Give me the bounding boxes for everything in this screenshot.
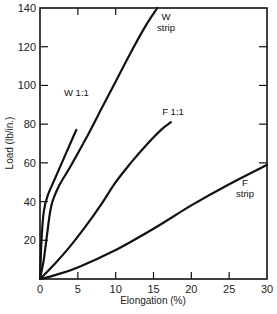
x-tick-label: 15 [147, 283, 159, 295]
series-labels: W 1:1WstripF 1:1Fstrip [64, 11, 254, 199]
y-tick-label: 20 [24, 234, 36, 246]
y-tick-label: 60 [24, 157, 36, 169]
y-tick-label: 140 [18, 2, 36, 14]
series-label-w-1-1: W 1:1 [64, 87, 89, 98]
y-tick-label: 120 [18, 41, 36, 53]
series-label-w-strip: strip [157, 22, 175, 33]
x-tick-label: 10 [110, 283, 122, 295]
x-tick-label: 0 [37, 283, 43, 295]
plot-border [40, 8, 267, 279]
data-curves [40, 8, 267, 279]
load-elongation-chart: 05101520253020406080100120140 W 1:1Wstri… [0, 0, 277, 314]
series-label-w-strip: W [162, 11, 171, 22]
plot-frame [40, 8, 267, 279]
y-tick-label: 100 [18, 79, 36, 91]
x-tick-label: 5 [75, 283, 81, 295]
y-axis-title: Load (lb/in.) [4, 117, 15, 170]
x-tick-label: 20 [185, 283, 197, 295]
curve-w-strip [40, 8, 157, 279]
x-tick-label: 25 [223, 283, 235, 295]
series-label-f-strip: F [242, 177, 248, 188]
y-tick-label: 80 [24, 118, 36, 130]
series-label-f-strip: strip [236, 188, 254, 199]
y-tick-label: 40 [24, 196, 36, 208]
curve-w-1-1 [40, 130, 76, 279]
curve-f-strip [40, 165, 267, 279]
series-label-f-1-1: F 1:1 [162, 106, 184, 117]
x-tick-label: 30 [261, 283, 273, 295]
axis-ticks: 05101520253020406080100120140 [18, 2, 273, 295]
x-axis-title: Elongation (%) [120, 295, 186, 306]
